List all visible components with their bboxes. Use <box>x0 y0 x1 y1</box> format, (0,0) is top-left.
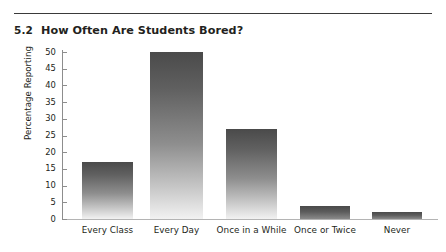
bar <box>82 162 133 219</box>
x-axis-line <box>62 219 438 220</box>
bars-layer <box>0 52 446 219</box>
y-tick-mark <box>62 219 67 220</box>
bar <box>150 52 203 219</box>
bar-chart: Percentage Reporting 0510152025303540455… <box>0 0 446 252</box>
bar <box>372 212 422 219</box>
bar <box>226 129 277 219</box>
bar <box>300 206 350 219</box>
x-tick-label: Never <box>350 225 444 235</box>
